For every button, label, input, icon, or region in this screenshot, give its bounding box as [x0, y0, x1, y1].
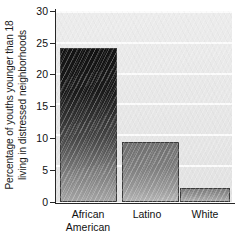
y-tick-label-5: 5 [42, 165, 48, 176]
y-tick-mark-15 [50, 106, 55, 107]
gridline-25 [56, 42, 232, 44]
bar-white[interactable] [180, 188, 230, 202]
plot-area [56, 11, 232, 202]
y-tick-label-0: 0 [42, 197, 48, 208]
y-tick-label-30: 30 [36, 6, 48, 17]
y-tick-label-25: 25 [36, 38, 48, 49]
gridline-30 [56, 11, 232, 13]
y-axis-title: Percentage of youths younger than 18 liv… [0, 0, 32, 210]
bar-latino[interactable] [122, 142, 179, 202]
y-axis-title-text: Percentage of youths younger than 18 liv… [3, 20, 29, 189]
y-axis-title-line-2: living in distressed neighborhoods [16, 20, 29, 189]
y-tick-mark-10 [50, 138, 55, 139]
y-tick-mark-20 [50, 74, 55, 75]
y-tick-mark-5 [50, 170, 55, 171]
y-tick-mark-0 [50, 202, 55, 203]
y-tick-label-15: 15 [36, 101, 48, 112]
x-label-african-american-line-2: American [50, 221, 126, 234]
bar-chart-figure: Percentage of youths younger than 18 liv… [0, 0, 242, 241]
y-tick-mark-25 [50, 43, 55, 44]
y-tick-label-10: 10 [36, 133, 48, 144]
y-axis-title-line-1: Percentage of youths younger than 18 [3, 20, 16, 189]
y-tick-label-20: 20 [36, 69, 48, 80]
x-axis-line [55, 203, 235, 204]
x-label-white: White [172, 208, 238, 221]
bar-african-american[interactable] [60, 48, 117, 202]
x-label-white-line-1: White [172, 208, 238, 221]
y-tick-mark-30 [50, 11, 55, 12]
y-axis-line [55, 9, 56, 204]
